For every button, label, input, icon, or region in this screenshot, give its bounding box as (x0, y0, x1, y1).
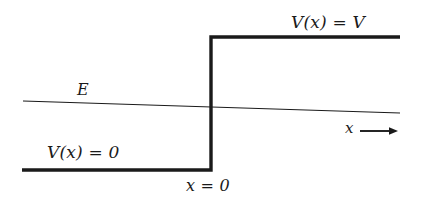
origin-label: x = 0 (186, 178, 230, 194)
potential-high-label: V(x) = V (291, 14, 365, 31)
potential-step-figure: V(x) = V V(x) = 0 E x = 0 x (0, 0, 422, 206)
energy-label: E (77, 82, 89, 98)
x-axis-label: x (345, 121, 354, 136)
potential-zero-label: V(x) = 0 (47, 144, 120, 161)
